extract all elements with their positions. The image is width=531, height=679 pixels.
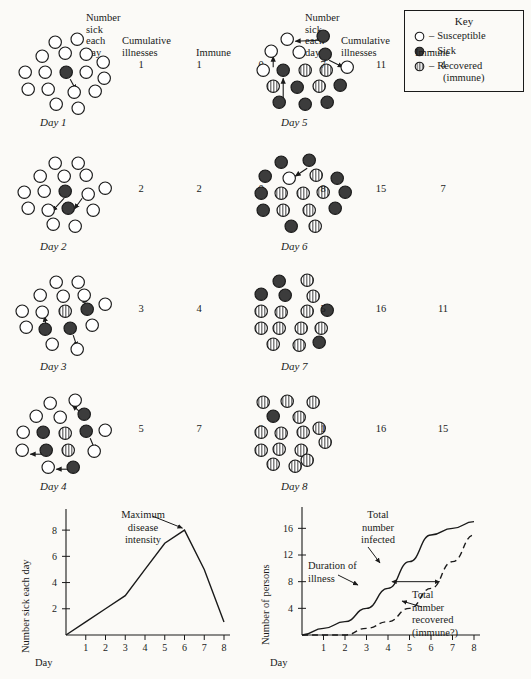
person-dot-susceptible (22, 83, 34, 95)
person-dot-sick (81, 303, 93, 315)
person-dot-susceptible (69, 220, 81, 232)
day-panel: Day 1 (14, 28, 124, 128)
person-dot-susceptible (71, 343, 83, 355)
annotation-maximum-disease-intensity: Maximum disease intensity (100, 509, 186, 547)
person-dot-susceptible (42, 83, 54, 95)
person-dot-susceptible (16, 305, 28, 317)
tick-label: 5 (162, 642, 167, 653)
person-dot-sick (255, 288, 267, 300)
key-item-susceptible: – Susceptible (414, 30, 523, 42)
person-dot-sick (39, 323, 51, 335)
person-dot-sick (275, 156, 287, 168)
person-dot-susceptible (38, 185, 50, 197)
person-dot-susceptible (34, 170, 46, 182)
person-dot-sick (273, 96, 285, 108)
person-dot-sick (267, 410, 279, 422)
person-dot-recovered (307, 290, 319, 302)
person-dot-susceptible (36, 50, 48, 62)
day-panel: Day 5 (255, 28, 365, 128)
person-dot-susceptible (99, 424, 111, 436)
stat-number-sick-each-day: 1 (128, 59, 154, 70)
person-dot-recovered (301, 274, 313, 286)
stat-cumulative-illnesses: 16 (368, 303, 394, 314)
population-cluster (255, 152, 365, 244)
tick-label: 16 (283, 523, 293, 534)
stat-cumulative-illnesses: 7 (186, 423, 212, 434)
person-dot-sick (255, 187, 267, 199)
person-dot-susceptible (86, 319, 98, 331)
person-dot-sick (279, 289, 291, 301)
person-dot-susceptible (49, 36, 61, 48)
annotation-leader-line (368, 547, 380, 563)
header-cumulative-illnesses: Cumulative illnesses (122, 35, 171, 58)
stat-number-sick-each-day: 5 (310, 303, 336, 314)
person-dot-recovered (310, 169, 322, 181)
tick-label: 4 (52, 577, 57, 588)
person-dot-recovered (297, 426, 309, 438)
person-dot-sick (273, 275, 285, 287)
person-dot-susceptible (99, 182, 111, 194)
person-dot-susceptible (18, 186, 30, 198)
person-dot-susceptible (36, 306, 48, 318)
transmission-arrow (295, 168, 307, 176)
person-dot-susceptible (54, 411, 66, 423)
tick-label: 8 (472, 642, 477, 653)
person-dot-recovered (59, 305, 71, 317)
day-panel: Day 7 (255, 272, 365, 372)
tick-label: 3 (123, 642, 128, 653)
annotation-total-number-recovered: Total number recovered (immune?) (412, 589, 458, 639)
person-dot-susceptible (293, 46, 305, 58)
chart-y-axis-title: Number of persons (260, 565, 271, 645)
population-cluster (14, 152, 124, 244)
day-label: Day 1 (40, 116, 67, 128)
tick-label: 2 (103, 642, 108, 653)
day-panel: Day 4 (14, 392, 124, 492)
tick-label: 4 (386, 642, 391, 653)
person-dot-susceptible (39, 66, 51, 78)
person-dot-susceptible (87, 204, 99, 216)
person-dot-susceptible (80, 48, 92, 60)
day-panel: Day 8 (255, 392, 365, 492)
open-circle-icon (414, 31, 427, 42)
person-dot-sick (259, 170, 271, 182)
person-dot-susceptible (341, 61, 353, 73)
person-dot-susceptible (69, 394, 81, 406)
person-dot-recovered (293, 339, 305, 351)
person-dot-recovered (303, 204, 315, 216)
stat-number-sick-each-day: 2 (128, 183, 154, 194)
person-dot-sick (285, 220, 297, 232)
person-dot-sick (291, 81, 303, 93)
person-dot-susceptible (283, 172, 295, 184)
person-dot-susceptible (78, 289, 90, 301)
chart-x-axis-title: Day (270, 657, 288, 668)
header-immune: Immune (196, 47, 231, 59)
person-dot-sick (40, 444, 52, 456)
chart-y-axis-title: Number sick each day (20, 559, 31, 653)
person-dot-recovered (257, 396, 269, 408)
tick-label: 1 (321, 642, 326, 653)
chart-x-axis-title: Day (35, 657, 53, 668)
transmission-arrow (74, 198, 82, 209)
person-dot-susceptible (46, 338, 58, 350)
person-dot-sick (67, 461, 79, 473)
person-dot-susceptible (42, 204, 54, 216)
key-title: Key (405, 15, 523, 27)
header-line: Number (86, 12, 120, 24)
person-dot-sick (303, 154, 315, 166)
day-label: Day 7 (281, 360, 308, 372)
person-dot-recovered (59, 427, 71, 439)
person-dot-sick (277, 64, 289, 76)
person-dot-susceptible (47, 218, 59, 230)
day-label: Day 4 (40, 480, 67, 492)
header-immune: Immune (415, 47, 450, 59)
tick-label: 8 (52, 525, 57, 536)
person-dot-susceptible (59, 47, 71, 59)
person-dot-recovered (275, 427, 287, 439)
person-dot-sick (257, 204, 269, 216)
stat-number-sick-each-day: 7 (310, 59, 336, 70)
day-label: Day 8 (281, 480, 308, 492)
header-line: Immune (196, 47, 231, 59)
person-dot-recovered (255, 426, 267, 438)
stat-number-sick-each-day: 3 (128, 303, 154, 314)
person-dot-susceptible (257, 64, 269, 76)
